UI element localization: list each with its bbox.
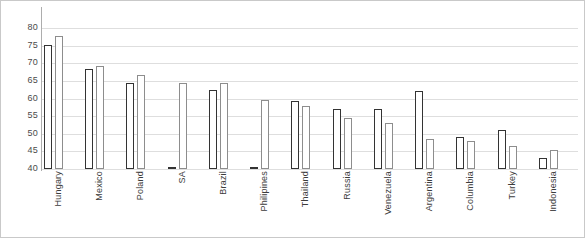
bar-sa-series2: [179, 83, 187, 169]
bar-group-sa: [166, 28, 207, 169]
x-tick-label-mexico: Mexico: [94, 171, 104, 238]
bar-group-poland: [124, 28, 165, 169]
x-tick-label-thailand: Thailand: [300, 171, 310, 238]
x-tick-label-poland: Poland: [135, 171, 145, 238]
x-tick-label-hungary: Hungary: [53, 171, 63, 238]
x-tick-label-argentina: Argentina: [424, 171, 434, 238]
bar-poland-series2: [137, 75, 145, 169]
bar-columbia-series2: [467, 141, 475, 169]
x-tick-label-venezuela: Venezuela: [383, 171, 393, 238]
x-axis-labels: HungaryMexicoPolandSABrazilPhilipinesTha…: [42, 171, 578, 238]
bar-group-russia: [331, 28, 372, 169]
bar-mexico-series1: [85, 69, 93, 169]
bar-venezuela-series2: [385, 123, 393, 169]
y-tick-label-70: 70: [14, 58, 38, 67]
x-tick-label-sa: SA: [177, 171, 187, 238]
bar-indonesia-series1: [539, 158, 547, 169]
bar-group-philipines: [248, 28, 289, 169]
bar-group-argentina: [413, 28, 454, 169]
y-tick-label-50: 50: [14, 129, 38, 138]
bar-series-container: [42, 28, 578, 169]
bar-group-thailand: [289, 28, 330, 169]
bar-turkey-series1: [498, 130, 506, 169]
bar-group-columbia: [454, 28, 495, 169]
bar-hungary-series2: [55, 36, 63, 169]
y-tick-label-40: 40: [14, 164, 38, 173]
y-tick-label-55: 55: [14, 111, 38, 120]
bar-chart: HungaryMexicoPolandSABrazilPhilipinesTha…: [0, 0, 585, 238]
x-tick-label-indonesia: Indonesia: [548, 171, 558, 238]
bar-thailand-series1: [291, 101, 299, 169]
bar-poland-series1: [126, 83, 134, 169]
bar-philipines-series2: [261, 100, 269, 169]
bar-group-turkey: [496, 28, 537, 169]
bar-group-indonesia: [537, 28, 578, 169]
bar-group-venezuela: [372, 28, 413, 169]
x-tick-label-columbia: Columbia: [465, 171, 475, 238]
bar-turkey-series2: [509, 146, 517, 169]
y-tick-label-60: 60: [14, 94, 38, 103]
bar-mexico-series2: [96, 66, 104, 169]
x-tick-label-philipines: Philipines: [259, 171, 269, 238]
bar-argentina-series2: [426, 139, 434, 169]
bar-brazil-series2: [220, 83, 228, 169]
bar-group-brazil: [207, 28, 248, 169]
bar-sa-series1: [168, 167, 176, 169]
bar-hungary-series1: [44, 45, 52, 169]
bar-thailand-series2: [302, 106, 310, 169]
x-tick-label-turkey: Turkey: [507, 171, 517, 238]
bar-group-hungary: [42, 28, 83, 169]
bar-russia-series1: [333, 109, 341, 169]
bar-indonesia-series2: [550, 150, 558, 169]
gridline-40: [42, 169, 578, 170]
bar-brazil-series1: [209, 90, 217, 169]
y-tick-label-80: 80: [14, 23, 38, 32]
y-tick-label-45: 45: [14, 146, 38, 155]
x-tick-label-russia: Russia: [342, 171, 352, 238]
bar-venezuela-series1: [374, 109, 382, 169]
y-tick-label-75: 75: [14, 41, 38, 50]
x-tick-label-brazil: Brazil: [218, 171, 228, 238]
bar-philipines-series1: [250, 167, 258, 169]
y-tick-label-65: 65: [14, 76, 38, 85]
bar-columbia-series1: [456, 137, 464, 169]
bar-group-mexico: [83, 28, 124, 169]
bar-russia-series2: [344, 118, 352, 169]
bar-argentina-series1: [415, 91, 423, 169]
